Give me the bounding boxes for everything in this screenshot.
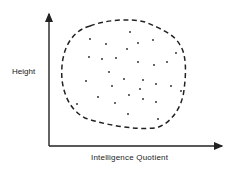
data-point — [111, 85, 113, 87]
data-point — [85, 80, 87, 82]
data-point — [115, 57, 117, 59]
dashed-boundary — [62, 20, 186, 129]
data-points — [76, 31, 182, 120]
data-point — [108, 71, 110, 73]
data-point — [76, 103, 78, 105]
data-point — [155, 101, 157, 103]
data-point — [137, 42, 139, 44]
data-point — [166, 61, 168, 63]
data-point — [157, 118, 159, 120]
data-point — [153, 64, 155, 66]
data-point — [129, 31, 131, 33]
data-point — [142, 79, 144, 81]
y-axis-label: Height — [12, 67, 35, 76]
data-point — [88, 56, 90, 58]
data-point — [139, 88, 141, 90]
data-point — [123, 78, 125, 80]
data-point — [114, 102, 116, 104]
x-axis-label: Intelligence Quotient — [91, 153, 168, 162]
data-point — [105, 43, 107, 45]
data-point — [127, 113, 129, 115]
data-point — [142, 98, 144, 100]
data-point — [89, 38, 91, 40]
data-point — [180, 90, 182, 92]
data-point — [152, 39, 154, 41]
data-point — [128, 94, 130, 96]
data-point — [175, 52, 177, 54]
data-point — [170, 85, 172, 87]
data-point — [155, 83, 157, 85]
data-point — [137, 61, 139, 63]
data-point — [126, 48, 128, 50]
scatter-diagram — [0, 0, 241, 172]
data-point — [101, 58, 103, 60]
data-point — [97, 96, 99, 98]
